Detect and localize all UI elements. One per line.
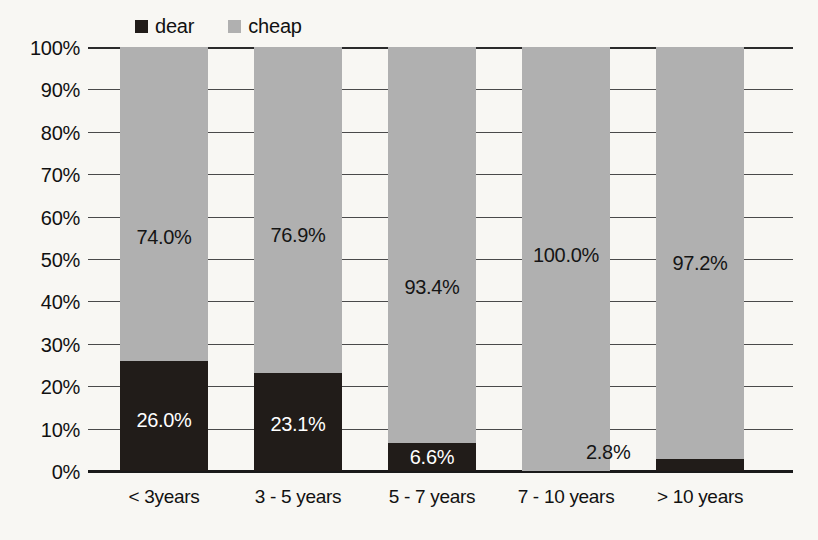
legend-swatch-dear [135, 20, 148, 33]
bar-value-label: 100.0% [533, 245, 599, 265]
bar-group[interactable]: 76.9% 23.1% [254, 47, 342, 471]
y-tick-label: 0% [6, 462, 80, 482]
y-tick-label: 30% [6, 335, 80, 355]
bar-group[interactable]: 97.2% 2.8% [656, 47, 744, 471]
bar-value-label: 76.9% [270, 225, 325, 245]
bar-segment-cheap[interactable]: 97.2% [656, 47, 744, 459]
bar-segment-cheap[interactable]: 76.9% [254, 47, 342, 373]
x-axis-labels: < 3years 3 - 5 years 5 - 7 years 7 - 10 … [88, 487, 793, 517]
legend-item-cheap: cheap [228, 16, 302, 36]
y-tick-label: 70% [6, 165, 80, 185]
bar-segment-dear[interactable]: 26.0% [120, 361, 208, 471]
legend-label-dear: dear [155, 16, 194, 36]
bar-value-label: 23.1% [270, 414, 325, 434]
bar-segment-cheap[interactable]: 74.0% [120, 47, 208, 361]
x-tick-label: < 3years [94, 487, 234, 506]
bar-segment-cheap[interactable]: 93.4% [388, 47, 476, 443]
y-tick-label: 10% [6, 420, 80, 440]
bar-group[interactable]: 100.0% [522, 47, 610, 471]
bar-segment-cheap[interactable]: 100.0% [522, 47, 610, 471]
legend-label-cheap: cheap [248, 16, 302, 36]
stacked-bar-chart: dear cheap 100% 90% 80% 70% 60% 50% 40% … [0, 0, 818, 540]
bar-value-label: 93.4% [404, 277, 459, 297]
plot-area: 74.0% 26.0% 76.9% 23.1% 93.4% 6.6% [88, 47, 793, 471]
y-tick-label: 40% [6, 292, 80, 312]
x-tick-label: 5 - 7 years [362, 487, 502, 506]
bar-value-label: 97.2% [672, 253, 727, 273]
y-axis: 100% 90% 80% 70% 60% 50% 40% 30% 20% 10%… [0, 47, 80, 471]
chart-legend: dear cheap [135, 14, 302, 38]
bar-value-label: 2.8% [586, 442, 630, 462]
bar-value-label: 74.0% [136, 227, 191, 247]
legend-item-dear: dear [135, 16, 194, 36]
y-tick-label: 80% [6, 123, 80, 143]
bar-segment-dear[interactable] [656, 459, 744, 471]
x-tick-label: 3 - 5 years [228, 487, 368, 506]
bar-segment-dear[interactable]: 23.1% [254, 373, 342, 471]
bar-value-label: 26.0% [136, 410, 191, 430]
y-tick-label: 20% [6, 377, 80, 397]
y-tick-label: 100% [6, 38, 80, 58]
bar-group[interactable]: 74.0% 26.0% [120, 47, 208, 471]
bar-group[interactable]: 93.4% 6.6% [388, 47, 476, 471]
y-tick-label: 60% [6, 208, 80, 228]
bar-value-label: 6.6% [410, 447, 454, 467]
x-tick-label: > 10 years [630, 487, 770, 506]
y-tick-label: 90% [6, 80, 80, 100]
bar-segment-dear[interactable]: 6.6% [388, 443, 476, 471]
y-tick-label: 50% [6, 250, 80, 270]
x-tick-label: 7 - 10 years [496, 487, 636, 506]
legend-swatch-cheap [228, 20, 241, 33]
